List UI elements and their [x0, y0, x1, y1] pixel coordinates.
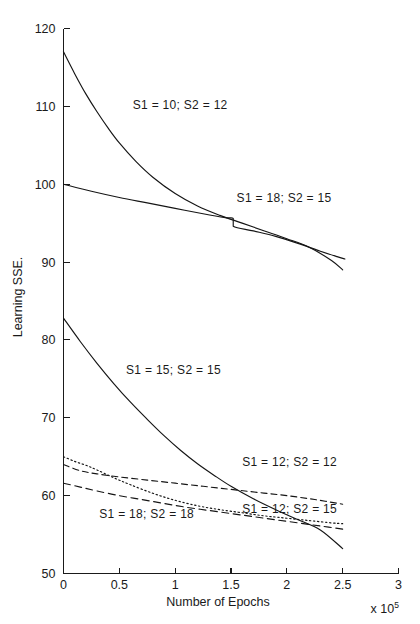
- series-annotation-label: S1 = 18; S2 = 18: [99, 507, 194, 521]
- x-axis-tick-label: 0.5: [111, 578, 128, 592]
- series-labels-layer: S1 = 10; S2 = 12S1 = 18; S2 = 15S1 = 15;…: [99, 98, 337, 522]
- x-axis-tick-label: 1: [172, 578, 179, 592]
- x-axis-multiplier: x 105: [371, 600, 400, 616]
- series-annotation-label: S1 = 12; S2 = 12: [242, 455, 337, 469]
- y-axis-tick-label: 60: [42, 489, 56, 503]
- chart-container: 506070809010011012000.511.522.53 S1 = 10…: [0, 0, 420, 624]
- axis-spines: [64, 29, 399, 574]
- series-annotation-label: S1 = 10; S2 = 12: [133, 98, 228, 112]
- x-axis-tick-label: 1.5: [222, 578, 239, 592]
- x-axis-tick-label: 3: [395, 578, 402, 592]
- x-axis-tick-label: 2: [283, 578, 290, 592]
- x-axis-multiplier-exponent: 5: [394, 600, 399, 610]
- x-axis-tick-label: 0: [60, 578, 67, 592]
- series-annotation-label: S1 = 15; S2 = 15: [126, 363, 221, 377]
- y-axis-tick-label: 50: [42, 567, 56, 581]
- y-axis-tick-label: 70: [42, 411, 56, 425]
- series-annotation-label: S1 = 12; S2 = 15: [242, 502, 337, 516]
- line-chart: 506070809010011012000.511.522.53 S1 = 10…: [0, 0, 420, 624]
- axis-titles-layer: Number of EpochsLearning SSE.x 105: [11, 257, 399, 616]
- y-axis-title: Learning SSE.: [11, 257, 25, 338]
- y-axis-tick-label: 100: [35, 178, 56, 192]
- x-axis-multiplier-base: x 10: [371, 602, 395, 616]
- series-curve: [64, 465, 343, 505]
- y-axis-tick-label: 90: [42, 256, 56, 270]
- series-curve: [64, 52, 343, 270]
- x-axis-title: Number of Epochs: [166, 595, 270, 609]
- y-axis-tick-label: 80: [42, 333, 56, 347]
- x-axis-tick-label: 2.5: [334, 578, 351, 592]
- y-axis-tick-label: 120: [35, 22, 56, 36]
- series-layer: [64, 52, 345, 549]
- y-axis-tick-label: 110: [36, 100, 56, 114]
- series-annotation-label: S1 = 18; S2 = 15: [237, 191, 332, 205]
- axes-layer: [64, 29, 399, 574]
